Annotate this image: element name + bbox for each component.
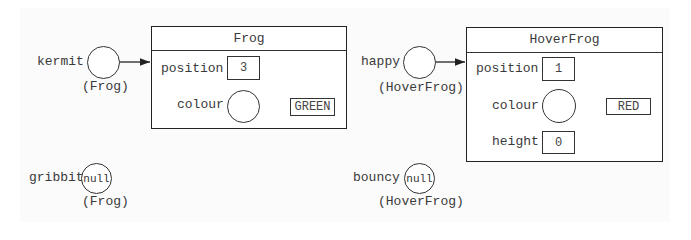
hoverfrog-field-position-value: 1: [542, 57, 575, 81]
ref-type-kermit: (Frog): [82, 80, 129, 94]
ref-type-happy: (HoverFrog): [378, 81, 464, 95]
ref-name-kermit: kermit: [37, 55, 84, 69]
ref-circle-gribbit: null: [81, 163, 112, 194]
frog-field-position-value: 3: [227, 56, 260, 80]
frog-colour-enum-value: GREEN: [290, 98, 335, 116]
frog-field-colour-label: colour: [177, 98, 224, 112]
ref-circle-kermit: [87, 46, 120, 79]
ref-name-bouncy: bouncy: [353, 171, 400, 185]
ref-type-gribbit: (Frog): [82, 195, 129, 209]
hoverfrog-field-height-label: height: [492, 135, 539, 149]
ref-circle-happy: [403, 46, 436, 79]
hoverfrog-field-position-label: position: [476, 62, 538, 76]
ref-circle-bouncy: null: [404, 163, 435, 194]
ref-name-happy: happy: [361, 55, 400, 69]
hoverfrog-colour-enum-value: RED: [606, 98, 651, 115]
frog-field-colour-circle: [227, 90, 260, 123]
frog-field-position-label: position: [161, 62, 223, 76]
hoverfrog-field-colour-circle: [542, 89, 576, 123]
hoverfrog-field-colour-label: colour: [492, 99, 539, 113]
object-frog-class: Frog: [152, 27, 346, 51]
ref-name-gribbit: gribbit: [29, 171, 84, 185]
ref-type-bouncy: (HoverFrog): [378, 195, 464, 209]
hoverfrog-field-height-value: 0: [542, 131, 575, 154]
object-hoverfrog-class: HoverFrog: [467, 28, 662, 53]
